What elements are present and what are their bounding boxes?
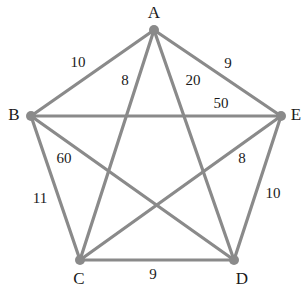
node-label-a: A: [148, 4, 160, 21]
edge-weight-a-c: 8: [121, 73, 129, 88]
edge-weight-c-d: 9: [149, 267, 157, 282]
edge-weight-a-b: 10: [71, 55, 86, 70]
graph-canvas: [0, 0, 304, 288]
node-b: [26, 111, 36, 121]
edge-weight-b-c: 11: [33, 191, 47, 206]
node-label-d: D: [236, 270, 248, 287]
edge-b-d: [31, 116, 234, 260]
edges-layer: [31, 30, 281, 260]
edge-weight-a-e: 9: [224, 56, 232, 71]
nodes-layer: [26, 25, 286, 265]
edge-weight-a-d: 20: [186, 73, 201, 88]
node-a: [149, 25, 159, 35]
node-e: [276, 111, 286, 121]
edge-a-c: [80, 30, 154, 260]
edge-weight-b-e: 50: [214, 96, 229, 111]
edge-weight-d-e: 10: [266, 186, 281, 201]
edge-weight-b-d: 60: [57, 151, 72, 166]
edge-weight-c-e: 8: [238, 151, 246, 166]
edge-a-b: [31, 30, 154, 116]
node-label-e: E: [291, 106, 301, 123]
edge-c-e: [80, 116, 281, 260]
edge-a-d: [154, 30, 234, 260]
edge-b-c: [31, 116, 80, 260]
node-c: [75, 255, 85, 265]
node-label-b: B: [8, 106, 19, 123]
node-d: [229, 255, 239, 265]
node-label-c: C: [73, 270, 84, 287]
